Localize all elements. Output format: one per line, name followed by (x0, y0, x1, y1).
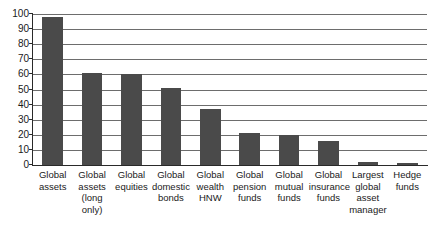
y-axis-tick-label: 80 (18, 39, 33, 49)
bar-column (161, 14, 181, 165)
x-axis-label-line: funds (269, 192, 308, 204)
x-axis-label-line: assets (33, 181, 72, 193)
x-axis-category-label: Globalequities (112, 169, 151, 192)
y-axis-tick-label: 100 (12, 9, 33, 19)
x-axis-label-line: Global (151, 169, 190, 181)
x-axis-label-line: Global (230, 169, 269, 181)
x-axis-label-line: only) (72, 204, 111, 216)
x-axis-label-line: domestic (151, 181, 190, 193)
x-axis-category-label: Globaldomesticbonds (151, 169, 190, 204)
bar (82, 73, 102, 165)
x-axis-label-line: Global (112, 169, 151, 181)
y-axis-tick-label: 90 (18, 24, 33, 34)
bar-chart-figure: 1009080706050403020100 GlobalassetsGloba… (0, 0, 444, 233)
x-axis-label-line: Hedge (388, 169, 427, 181)
x-axis-label-line: funds (230, 192, 269, 204)
x-axis-label-line: asset (348, 192, 387, 204)
x-axis-category-label: Globalmutualfunds (269, 169, 308, 204)
bar (42, 17, 62, 165)
x-axis-baseline (32, 165, 428, 166)
y-axis-tick-label: 60 (18, 69, 33, 79)
y-axis-tick-label: 10 (18, 145, 33, 155)
x-axis-category-label: Globalassets(longonly) (72, 169, 111, 215)
bar (121, 74, 141, 165)
x-axis-label-line: mutual (269, 181, 308, 193)
x-axis-label-line: assets (72, 181, 111, 193)
bars-layer (33, 14, 427, 165)
x-axis-label-line: HNW (191, 192, 230, 204)
bar-column (42, 14, 62, 165)
x-axis-label-line: Global (309, 169, 348, 181)
x-axis-label-line: Global (191, 169, 230, 181)
x-axis-category-label: Globalpensionfunds (230, 169, 269, 204)
bar (161, 88, 181, 165)
bar (318, 141, 338, 165)
x-axis-label-line: Global (269, 169, 308, 181)
x-axis-label-line: global (348, 181, 387, 193)
x-axis-category-label: Globalinsurancefunds (309, 169, 348, 204)
x-axis-label-line: Global (33, 169, 72, 181)
x-axis-label-line: bonds (151, 192, 190, 204)
bar-column (318, 14, 338, 165)
x-axis-label-line: Global (72, 169, 111, 181)
bar-column (82, 14, 102, 165)
y-axis-tick-label: 50 (18, 85, 33, 95)
bar-column (200, 14, 220, 165)
x-axis-label-line: pension (230, 181, 269, 193)
x-axis-labels: GlobalassetsGlobalassets(longonly)Global… (33, 169, 427, 231)
bar (239, 133, 259, 165)
bar-column (121, 14, 141, 165)
x-axis-category-label: Hedgefunds (388, 169, 427, 192)
x-axis-label-line: funds (388, 181, 427, 193)
y-axis-tick-label: 20 (18, 130, 33, 140)
bar (358, 162, 378, 165)
bar-column (358, 14, 378, 165)
bar (397, 163, 417, 165)
x-axis-label-line: Largest (348, 169, 387, 181)
x-axis-category-label: Globalassets (33, 169, 72, 192)
x-axis-label-line: (long (72, 192, 111, 204)
y-axis-tick-label: 40 (18, 100, 33, 110)
x-axis-category-label: Largestglobalassetmanager (348, 169, 387, 215)
x-axis-label-line: wealth (191, 181, 230, 193)
bar-column (279, 14, 299, 165)
x-axis-label-line: manager (348, 204, 387, 216)
x-axis-label-line: funds (309, 192, 348, 204)
x-axis-label-line: equities (112, 181, 151, 193)
x-axis-category-label: GlobalwealthHNW (191, 169, 230, 204)
y-axis-tick-label: 30 (18, 115, 33, 125)
y-axis-tick-label: 70 (18, 54, 33, 64)
bar (279, 135, 299, 165)
x-axis-label-line: insurance (309, 181, 348, 193)
bar (200, 109, 220, 165)
bar-column (239, 14, 259, 165)
bar-column (397, 14, 417, 165)
